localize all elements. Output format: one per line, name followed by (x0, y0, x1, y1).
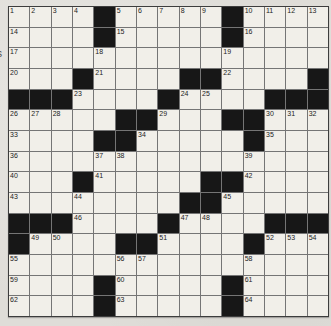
grid-cell[interactable]: 10 (244, 7, 264, 27)
grid-cell[interactable] (308, 48, 328, 68)
grid-cell[interactable]: 38 (116, 152, 136, 172)
grid-cell[interactable] (94, 214, 114, 234)
grid-cell[interactable]: 23 (73, 90, 93, 110)
grid-cell[interactable] (137, 214, 157, 234)
grid-cell[interactable] (158, 152, 178, 172)
grid-cell[interactable] (30, 276, 50, 296)
grid-cell[interactable]: 22 (222, 69, 242, 89)
grid-cell[interactable] (244, 90, 264, 110)
grid-cell[interactable] (158, 296, 178, 316)
grid-cell[interactable] (52, 131, 72, 151)
grid-cell[interactable] (158, 255, 178, 275)
grid-cell[interactable] (180, 276, 200, 296)
grid-cell[interactable]: 5 (116, 7, 136, 27)
grid-cell[interactable] (73, 255, 93, 275)
grid-cell[interactable] (201, 48, 221, 68)
grid-cell[interactable]: 45 (222, 193, 242, 213)
grid-cell[interactable]: 14 (9, 28, 29, 48)
grid-cell[interactable] (73, 28, 93, 48)
grid-cell[interactable]: 64 (244, 296, 264, 316)
grid-cell[interactable] (116, 193, 136, 213)
grid-cell[interactable] (308, 276, 328, 296)
grid-cell[interactable] (73, 131, 93, 151)
grid-cell[interactable] (244, 69, 264, 89)
grid-cell[interactable]: 8 (180, 7, 200, 27)
grid-cell[interactable]: 30 (265, 110, 285, 130)
grid-cell[interactable] (222, 255, 242, 275)
grid-cell[interactable]: 2 (30, 7, 50, 27)
grid-cell[interactable] (201, 110, 221, 130)
grid-cell[interactable] (116, 172, 136, 192)
grid-cell[interactable]: 17 (9, 48, 29, 68)
grid-cell[interactable] (308, 193, 328, 213)
grid-cell[interactable] (30, 28, 50, 48)
grid-cell[interactable] (73, 152, 93, 172)
grid-cell[interactable] (158, 193, 178, 213)
grid-cell[interactable] (201, 152, 221, 172)
grid-cell[interactable] (52, 296, 72, 316)
grid-cell[interactable]: 31 (286, 110, 306, 130)
grid-cell[interactable] (244, 48, 264, 68)
grid-cell[interactable] (73, 234, 93, 254)
grid-cell[interactable] (286, 131, 306, 151)
grid-cell[interactable] (308, 172, 328, 192)
grid-cell[interactable] (158, 172, 178, 192)
grid-cell[interactable] (52, 28, 72, 48)
grid-cell[interactable] (116, 48, 136, 68)
grid-cell[interactable] (308, 296, 328, 316)
grid-cell[interactable] (30, 296, 50, 316)
grid-cell[interactable]: 63 (116, 296, 136, 316)
grid-cell[interactable] (201, 255, 221, 275)
grid-cell[interactable] (244, 214, 264, 234)
grid-cell[interactable]: 25 (201, 90, 221, 110)
grid-cell[interactable] (137, 90, 157, 110)
grid-cell[interactable]: 62 (9, 296, 29, 316)
grid-cell[interactable]: 35 (265, 131, 285, 151)
grid-cell[interactable] (180, 131, 200, 151)
grid-cell[interactable] (265, 69, 285, 89)
grid-cell[interactable]: 46 (73, 214, 93, 234)
grid-cell[interactable]: 39 (244, 152, 264, 172)
grid-cell[interactable] (308, 152, 328, 172)
grid-cell[interactable] (265, 172, 285, 192)
grid-cell[interactable]: 56 (116, 255, 136, 275)
grid-cell[interactable] (73, 296, 93, 316)
grid-cell[interactable] (30, 193, 50, 213)
grid-cell[interactable] (180, 296, 200, 316)
grid-cell[interactable] (158, 276, 178, 296)
grid-cell[interactable]: 27 (30, 110, 50, 130)
grid-cell[interactable] (52, 172, 72, 192)
grid-cell[interactable] (94, 90, 114, 110)
grid-cell[interactable]: 9 (201, 7, 221, 27)
grid-cell[interactable] (137, 193, 157, 213)
grid-cell[interactable] (286, 48, 306, 68)
grid-cell[interactable] (94, 193, 114, 213)
grid-cell[interactable]: 50 (52, 234, 72, 254)
grid-cell[interactable]: 42 (244, 172, 264, 192)
grid-cell[interactable] (286, 172, 306, 192)
grid-cell[interactable] (222, 152, 242, 172)
grid-cell[interactable]: 44 (73, 193, 93, 213)
grid-cell[interactable]: 11 (265, 7, 285, 27)
grid-cell[interactable] (286, 28, 306, 48)
grid-cell[interactable] (201, 276, 221, 296)
grid-cell[interactable] (94, 234, 114, 254)
grid-cell[interactable]: 60 (116, 276, 136, 296)
grid-cell[interactable]: 52 (265, 234, 285, 254)
grid-cell[interactable]: 58 (244, 255, 264, 275)
grid-cell[interactable] (94, 255, 114, 275)
grid-cell[interactable] (30, 152, 50, 172)
grid-cell[interactable]: 49 (30, 234, 50, 254)
grid-cell[interactable]: 32 (308, 110, 328, 130)
grid-cell[interactable] (180, 234, 200, 254)
grid-cell[interactable] (265, 255, 285, 275)
grid-cell[interactable]: 18 (94, 48, 114, 68)
grid-cell[interactable] (265, 193, 285, 213)
grid-cell[interactable] (52, 69, 72, 89)
grid-cell[interactable] (73, 276, 93, 296)
grid-cell[interactable] (201, 28, 221, 48)
grid-cell[interactable] (137, 48, 157, 68)
grid-cell[interactable] (180, 28, 200, 48)
grid-cell[interactable] (180, 255, 200, 275)
grid-cell[interactable] (286, 152, 306, 172)
